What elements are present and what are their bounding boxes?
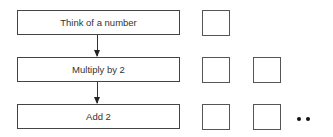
step-label: Add 2 [86,111,111,122]
arrow-down-icon [97,82,98,103]
value-box [253,104,281,130]
step-add-2: Add 2 [17,104,180,129]
arrow-down-icon [97,35,98,56]
step-think-of-a-number: Think of a number [17,10,180,35]
value-box [202,57,230,83]
value-box [253,57,281,83]
step-multiply-by-2: Multiply by 2 [17,57,180,82]
continuation-dots [297,111,315,121]
value-box [202,10,230,36]
value-box [202,104,230,130]
step-label: Multiply by 2 [72,64,125,75]
step-label: Think of a number [60,17,137,28]
